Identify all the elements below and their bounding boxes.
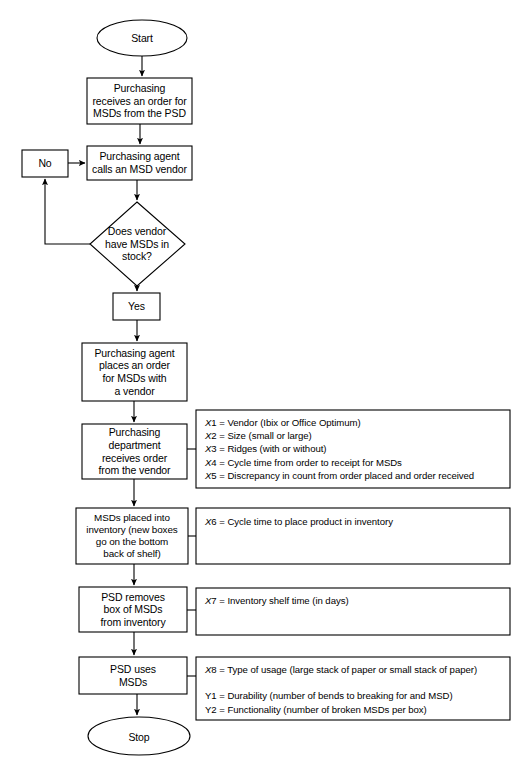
annotation-line — [205, 676, 505, 689]
step-label-calls-vendor: Purchasing agent calls an MSD vendor — [87, 146, 192, 180]
step-label-psd-uses: PSD uses MSDs — [79, 657, 187, 694]
branch-label-no: No — [22, 150, 68, 177]
annotation-text-vars-x8-y1-y2: X8 = Type of usage (large stack of paper… — [205, 663, 505, 716]
step-label-placed-into-inventory: MSDs placed into inventory (new boxes go… — [76, 508, 188, 564]
step-label-receives-from-vendor: Purchasing department receives order fro… — [82, 424, 187, 479]
variable-description: = Cycle time from order to receipt for M… — [217, 457, 402, 468]
annotation-line: Y2 = Functionality (number of broken MSD… — [205, 703, 505, 716]
flowchart-diagram: Start Purchasing receives an order for M… — [0, 0, 527, 763]
branch-label-yes: Yes — [113, 293, 160, 320]
annotation-line: X8 = Type of usage (large stack of paper… — [205, 663, 505, 676]
step-label-receives-order: Purchasing receives an order for MSDs fr… — [87, 78, 192, 124]
annotation-text-vars-x6: X6 = Cycle time to place product in inve… — [205, 515, 505, 528]
annotation-line: X3 = Ridges (with or without) — [205, 442, 505, 455]
annotation-line: X7 = Inventory shelf time (in days) — [205, 594, 505, 607]
annotation-line: X6 = Cycle time to place product in inve… — [205, 515, 505, 528]
annotation-line: X1 = Vendor (Ibix or Office Optimum) — [205, 416, 505, 429]
decision-label-vendor-stock: Does vendor have MSDs in stock? — [92, 216, 182, 272]
annotation-line: X5 = Discrepancy in count from order pla… — [205, 469, 505, 482]
variable-description: = Durability (number of bends to breakin… — [217, 690, 453, 701]
variable-description: = Size (small or large) — [217, 430, 312, 441]
annotation-text-vars-x1-x5: X1 = Vendor (Ibix or Office Optimum)X2 =… — [205, 416, 505, 482]
stop-label: Stop — [88, 718, 190, 756]
start-label: Start — [97, 20, 187, 56]
connector-decision-no-loopback — [45, 179, 90, 244]
variable-description: = Functionality (number of broken MSDs p… — [217, 704, 427, 715]
variable-description: = Vendor (Ibix or Office Optimum) — [217, 417, 361, 428]
step-label-psd-removes: PSD removes box of MSDs from inventory — [79, 587, 187, 632]
diagram-shapes-layer — [0, 0, 527, 763]
variable-description: = Ridges (with or without) — [217, 443, 327, 454]
variable-description: = Type of usage (large stack of paper or… — [217, 664, 477, 675]
annotation-line: Y1 = Durability (number of bends to brea… — [205, 689, 505, 702]
variable-description: = Cycle time to place product in invento… — [217, 516, 393, 527]
annotation-line: X4 = Cycle time from order to receipt fo… — [205, 456, 505, 469]
variable-description: = Inventory shelf time (in days) — [217, 595, 349, 606]
annotation-line: X2 = Size (small or large) — [205, 429, 505, 442]
annotation-text-vars-x7: X7 = Inventory shelf time (in days) — [205, 594, 505, 607]
step-label-places-order: Purchasing agent places an order for MSD… — [82, 343, 187, 401]
variable-description: = Discrepancy in count from order placed… — [217, 470, 475, 481]
